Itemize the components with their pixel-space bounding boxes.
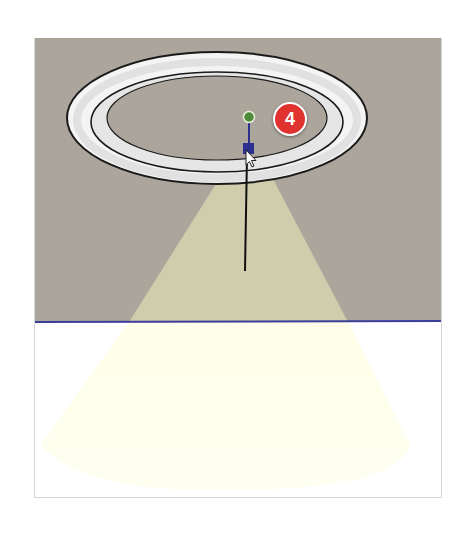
scene-canvas[interactable] [35, 38, 442, 498]
3d-viewport[interactable] [34, 38, 442, 498]
step-callout-badge: 4 [273, 102, 307, 136]
light-source-point[interactable] [244, 112, 255, 123]
horizon-line [35, 321, 442, 322]
